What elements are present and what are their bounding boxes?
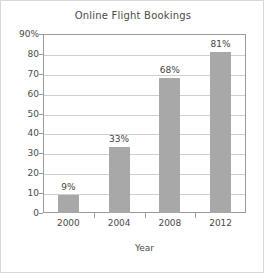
chart-title: Online Flight Bookings xyxy=(1,10,264,21)
x-tick-label: 2000 xyxy=(46,218,90,228)
bar-value-label: 33% xyxy=(99,134,139,144)
y-tick-label: 0 xyxy=(1,208,39,218)
x-tick-label: 2012 xyxy=(199,218,243,228)
y-tick-label: 50 xyxy=(1,109,39,119)
y-tick-label: 80 xyxy=(1,49,39,59)
y-axis-labels: 0102030405060708090% xyxy=(1,34,39,213)
bar-value-label: 68% xyxy=(150,65,190,75)
x-tick-label: 2004 xyxy=(97,218,141,228)
x-axis-title: Year xyxy=(43,243,246,253)
y-tick-label: 30 xyxy=(1,148,39,158)
y-tick-label: 60 xyxy=(1,89,39,99)
bar xyxy=(58,195,79,213)
x-tick-label: 2008 xyxy=(148,218,192,228)
bar xyxy=(109,147,130,213)
y-tick-label: 70 xyxy=(1,69,39,79)
y-tick-label: 20 xyxy=(1,168,39,178)
chart-figure: Online Flight Bookings 01020304050607080… xyxy=(0,0,264,273)
y-tick-label: 10 xyxy=(1,188,39,198)
x-axis-labels: 2000200420082012 xyxy=(43,218,246,232)
bar xyxy=(159,78,180,213)
bar-value-label: 81% xyxy=(201,39,241,49)
bar-value-label: 9% xyxy=(48,182,88,192)
y-tick-label: 40 xyxy=(1,128,39,138)
bar xyxy=(210,52,231,213)
y-tick-label: 90% xyxy=(1,29,39,39)
bars-layer: 9%33%68%81% xyxy=(43,34,246,213)
